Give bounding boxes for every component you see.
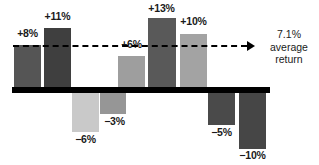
bar-label-2: +11% xyxy=(37,10,78,22)
average-return-word-2: return xyxy=(262,53,316,66)
bar-positive-2 xyxy=(44,28,71,92)
bar-label-7: +10% xyxy=(173,15,214,27)
bar-label-3: −6% xyxy=(68,133,103,145)
average-return-line xyxy=(13,45,247,47)
bar-positive-6 xyxy=(148,18,176,92)
zero-baseline xyxy=(12,87,270,93)
average-return-arrow-icon xyxy=(247,41,255,51)
average-return-word-1: average xyxy=(262,41,316,54)
bar-label-9: −10% xyxy=(232,149,273,161)
plot-area: +8% +11% +6% +13% +10% −6% −3% −5% −10% … xyxy=(0,0,319,165)
average-return-legend: 7.1% average return xyxy=(262,28,316,66)
bar-chart: +8% +11% +6% +13% +10% −6% −3% −5% −10% … xyxy=(0,0,319,165)
bar-positive-1 xyxy=(14,45,41,92)
bar-positive-7 xyxy=(180,34,207,92)
bar-label-5: +6% xyxy=(114,38,149,50)
bar-label-6: +13% xyxy=(141,2,182,14)
bar-label-4: −3% xyxy=(97,115,132,127)
bar-negative-4 xyxy=(100,92,126,114)
bar-negative-8 xyxy=(208,92,235,125)
bar-label-1: +8% xyxy=(10,27,45,39)
bar-label-8: −5% xyxy=(204,126,239,138)
bar-negative-9 xyxy=(239,92,266,149)
average-return-value: 7.1% xyxy=(262,28,316,41)
bar-negative-3 xyxy=(72,92,99,132)
